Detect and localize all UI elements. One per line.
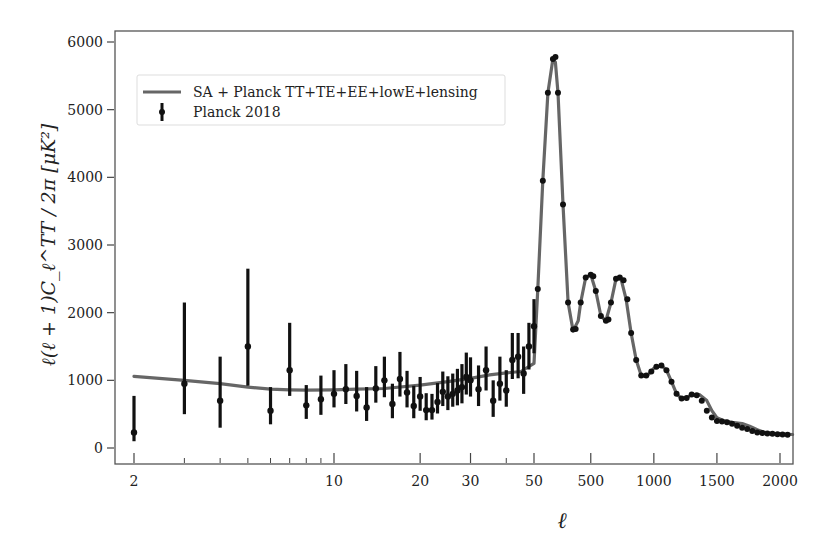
errorbar-point bbox=[503, 370, 509, 407]
data-point bbox=[545, 90, 551, 96]
errorbar-point bbox=[267, 387, 273, 424]
planck-2018-high-l-points bbox=[535, 54, 791, 438]
data-point bbox=[714, 418, 720, 424]
x-tick-label: 50 bbox=[525, 473, 543, 489]
x-tick-label: 1000 bbox=[636, 473, 672, 489]
y-axis-label: ℓ(ℓ + 1)C_ℓ^TT / 2π [μK²] bbox=[37, 123, 60, 366]
data-point bbox=[535, 286, 541, 292]
data-point bbox=[709, 415, 715, 421]
data-point bbox=[689, 392, 695, 398]
data-point bbox=[621, 277, 627, 283]
errorbar-point bbox=[381, 357, 387, 398]
data-point bbox=[694, 392, 700, 398]
data-point bbox=[653, 364, 659, 370]
data-point bbox=[643, 373, 649, 379]
errorbar-point bbox=[411, 386, 417, 418]
data-point bbox=[552, 54, 558, 60]
data-point bbox=[560, 201, 566, 207]
data-point bbox=[684, 395, 690, 401]
data-point bbox=[674, 391, 680, 397]
y-tick-label: 2000 bbox=[67, 305, 103, 321]
errorbar-point bbox=[429, 394, 435, 420]
y-tick-label: 5000 bbox=[67, 102, 103, 118]
data-point bbox=[578, 300, 584, 306]
data-point bbox=[669, 379, 675, 385]
data-point bbox=[624, 296, 630, 302]
data-point bbox=[565, 300, 571, 306]
y-tick-label: 3000 bbox=[67, 237, 103, 253]
data-point bbox=[605, 316, 611, 322]
errorbar-point bbox=[459, 364, 465, 403]
data-point bbox=[749, 428, 755, 434]
legend: SA + Planck TT+TE+EE+lowE+lensing Planck… bbox=[137, 75, 505, 125]
data-point bbox=[628, 330, 634, 336]
data-point bbox=[658, 362, 664, 368]
x-tick-label: 30 bbox=[462, 473, 480, 489]
x-tick-label: 2000 bbox=[762, 473, 798, 489]
data-point bbox=[573, 326, 579, 332]
data-point bbox=[608, 300, 614, 306]
errorbar-point bbox=[217, 357, 223, 428]
data-point bbox=[555, 90, 561, 96]
errorbar-point bbox=[363, 387, 369, 421]
data-point bbox=[699, 398, 705, 404]
data-point bbox=[590, 273, 596, 279]
data-point bbox=[719, 419, 725, 425]
data-point bbox=[704, 408, 710, 414]
legend-label-model: SA + Planck TT+TE+EE+lowE+lensing bbox=[193, 84, 478, 100]
errorbar-point bbox=[343, 364, 349, 404]
errorbar-point bbox=[245, 269, 251, 386]
data-point bbox=[785, 432, 791, 438]
x-axis-label: ℓ bbox=[557, 508, 567, 533]
y-tick-label: 4000 bbox=[67, 169, 103, 185]
x-tick-label: 500 bbox=[577, 473, 604, 489]
planck-2018-errorbars bbox=[131, 269, 537, 442]
errorbar-point bbox=[397, 352, 403, 397]
errorbar-point bbox=[423, 393, 429, 420]
errorbar-point bbox=[417, 377, 423, 411]
data-point bbox=[663, 367, 669, 373]
y-tick-label: 1000 bbox=[67, 372, 103, 388]
y-tick-label: 6000 bbox=[67, 34, 103, 50]
data-point bbox=[679, 396, 685, 402]
errorbar-point bbox=[475, 365, 481, 406]
data-point bbox=[583, 274, 589, 280]
errorbar-point bbox=[286, 323, 292, 396]
data-point bbox=[540, 178, 546, 184]
errorbar-point bbox=[490, 380, 496, 417]
data-point bbox=[593, 288, 599, 294]
data-point bbox=[739, 425, 745, 431]
x-tick-label: 2 bbox=[130, 473, 139, 489]
data-point bbox=[724, 419, 730, 425]
errorbar-point bbox=[373, 366, 379, 403]
y-tick-label: 0 bbox=[94, 440, 103, 456]
errorbar-point bbox=[526, 323, 532, 370]
errorbar-point bbox=[404, 371, 410, 408]
data-point bbox=[648, 369, 654, 375]
errorbar-point bbox=[434, 383, 440, 413]
errorbar-point bbox=[181, 303, 187, 415]
x-tick-label: 1500 bbox=[699, 473, 735, 489]
data-point bbox=[633, 357, 639, 363]
y-axis-ticks: 0100020003000400050006000 bbox=[67, 34, 114, 456]
data-point bbox=[598, 313, 604, 319]
x-tick-label: 20 bbox=[411, 473, 429, 489]
x-axis-ticks: 210203050500100015002000 bbox=[130, 453, 798, 489]
errorbar-point bbox=[497, 357, 503, 401]
x-tick-label: 10 bbox=[325, 473, 343, 489]
cmb-power-spectrum-chart: 0100020003000400050006000 21020305050010… bbox=[0, 0, 822, 555]
data-point bbox=[754, 429, 760, 435]
errorbar-point bbox=[353, 371, 359, 412]
errorbar-point bbox=[318, 376, 324, 415]
legend-label-data: Planck 2018 bbox=[193, 104, 281, 120]
errorbar-point bbox=[440, 372, 446, 407]
errorbar-point bbox=[483, 347, 489, 391]
errorbar-point bbox=[131, 396, 137, 441]
